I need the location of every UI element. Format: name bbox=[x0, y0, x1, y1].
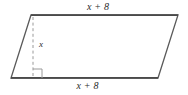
bottom-side-label: x + 8 bbox=[0, 81, 188, 91]
top-side-label: x + 8 bbox=[0, 2, 188, 12]
geometry-figure: x + 8 x + 8 x bbox=[0, 0, 188, 95]
height-label: x bbox=[39, 40, 43, 49]
